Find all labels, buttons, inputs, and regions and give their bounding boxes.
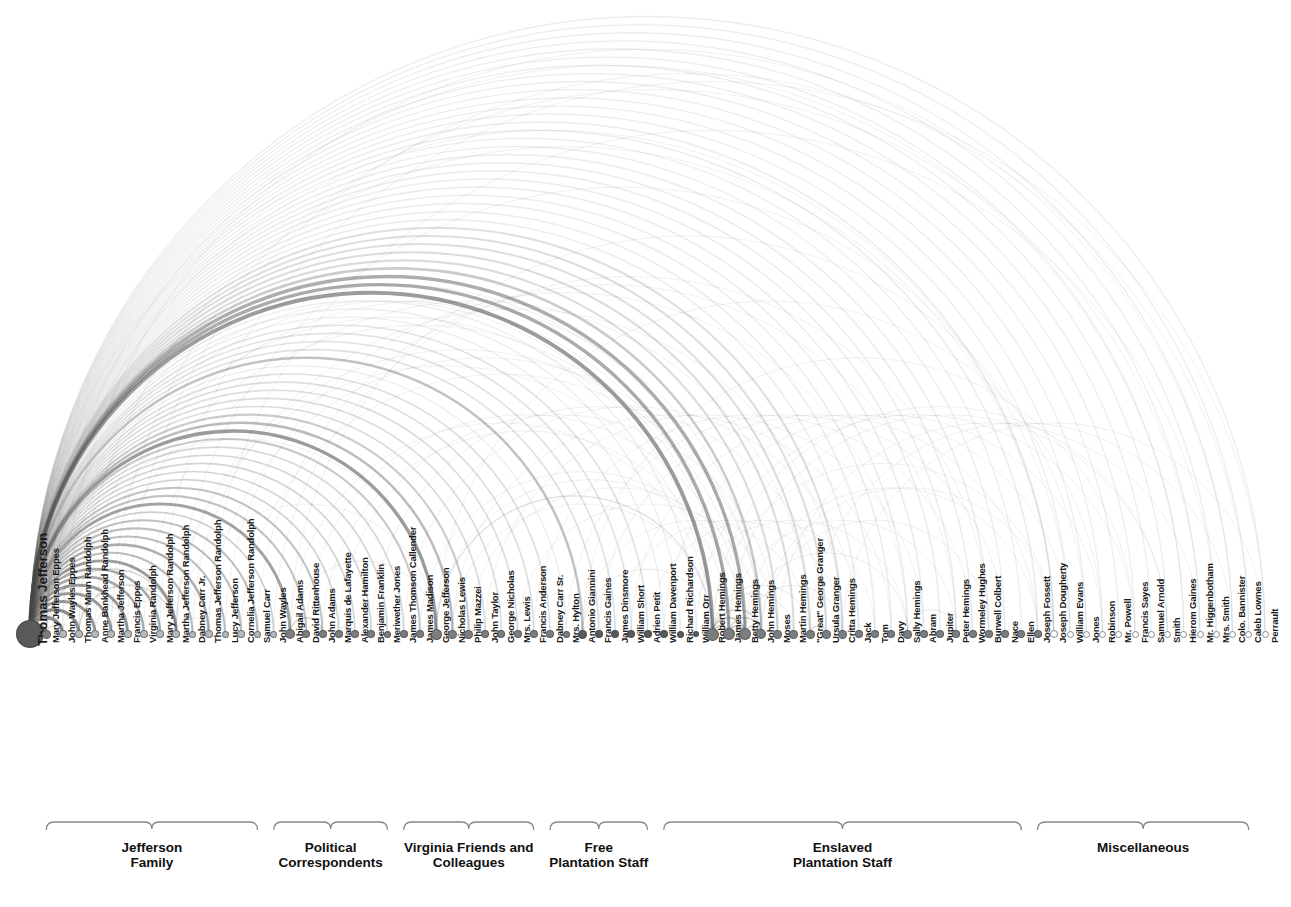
- person-node[interactable]: [1132, 631, 1139, 638]
- person-node[interactable]: [481, 630, 489, 638]
- group-label-line: Miscellaneous: [1023, 840, 1263, 855]
- node-label[interactable]: Mary Jefferson Eppes: [50, 548, 61, 643]
- group-label-line: Plantation Staff: [723, 855, 963, 870]
- person-node[interactable]: [91, 630, 99, 638]
- person-node[interactable]: [156, 630, 164, 638]
- group-label: EnslavedPlantation Staff: [723, 840, 963, 870]
- group-braces-layer: [0, 0, 1291, 907]
- person-node[interactable]: [1148, 631, 1155, 638]
- node-label[interactable]: Anne Bankhead Randolph: [99, 529, 110, 643]
- person-node[interactable]: [1067, 631, 1074, 638]
- group-brace: [1038, 822, 1249, 830]
- person-node[interactable]: [1099, 631, 1106, 638]
- node-label[interactable]: Mr. Higgenbotham: [1204, 563, 1215, 643]
- node-label[interactable]: Thomas Jefferson: [35, 533, 50, 646]
- group-label: Miscellaneous: [1023, 840, 1263, 855]
- node-label[interactable]: Cornelia Jefferson Randolph: [245, 519, 256, 643]
- person-node[interactable]: [1001, 630, 1009, 638]
- person-node[interactable]: [1213, 631, 1220, 638]
- person-node[interactable]: [416, 630, 424, 638]
- group-brace: [404, 822, 534, 830]
- person-node[interactable]: [611, 630, 619, 638]
- person-node[interactable]: [222, 631, 229, 638]
- group-brace: [274, 822, 388, 830]
- node-label[interactable]: Richard Richardson: [684, 556, 695, 643]
- node-label[interactable]: Thomas Mann Randolph: [82, 537, 93, 643]
- person-node[interactable]: [1083, 631, 1090, 638]
- person-node[interactable]: [936, 630, 944, 638]
- person-node[interactable]: [677, 631, 684, 638]
- person-node[interactable]: [1229, 631, 1236, 638]
- node-label[interactable]: Jones: [1090, 617, 1101, 643]
- group-label-line: Free: [479, 840, 719, 855]
- node-label[interactable]: Thomas Jefferson Randolph: [212, 520, 223, 643]
- node-label[interactable]: James Thomson Callender: [407, 527, 418, 643]
- group-brace: [550, 822, 648, 830]
- node-label[interactable]: Moses: [781, 614, 792, 643]
- person-node[interactable]: [351, 630, 359, 638]
- node-label[interactable]: Smith: [1171, 618, 1182, 643]
- node-label[interactable]: Mary Jefferson Randolph: [164, 534, 175, 643]
- node-label[interactable]: Joseph Dougherty: [1057, 563, 1068, 643]
- node-label[interactable]: William Davenport: [667, 564, 678, 643]
- person-node[interactable]: [1262, 631, 1269, 638]
- person-node[interactable]: [871, 630, 879, 638]
- person-node[interactable]: [546, 630, 554, 638]
- node-label[interactable]: Jupiter: [944, 613, 955, 643]
- group-label-line: Plantation Staff: [479, 855, 719, 870]
- person-node[interactable]: [254, 631, 261, 638]
- person-node[interactable]: [1164, 631, 1171, 638]
- group-label: FreePlantation Staff: [479, 840, 719, 870]
- node-label[interactable]: Marquis de Lafayette: [342, 553, 353, 644]
- person-node[interactable]: [384, 631, 391, 638]
- group-brace: [46, 822, 257, 830]
- node-label[interactable]: Perrault: [1269, 609, 1280, 643]
- node-label[interactable]: "Great" George Granger: [814, 538, 825, 643]
- node-label[interactable]: Abram: [927, 614, 938, 643]
- arc-diagram-figure: Thomas JeffersonMary Jefferson EppesJohn…: [0, 0, 1291, 907]
- person-node[interactable]: [1197, 631, 1204, 638]
- group-brace: [664, 822, 1022, 830]
- person-node[interactable]: [563, 631, 570, 638]
- node-label[interactable]: Martha Jefferson Randolph: [180, 525, 191, 643]
- person-node[interactable]: [189, 631, 196, 638]
- group-label-line: Enslaved: [723, 840, 963, 855]
